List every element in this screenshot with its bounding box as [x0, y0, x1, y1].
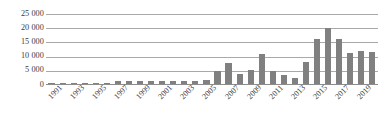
x-tick-cell: 1997: [112, 87, 123, 135]
bar-cell: [79, 14, 90, 84]
x-tick-cell: 2011: [267, 87, 278, 135]
bar-cell: [223, 14, 234, 84]
bar: [336, 39, 342, 84]
y-axis-tick-labels: 05 00010 00015 00020 00025 000: [0, 0, 44, 95]
bar: [71, 83, 77, 84]
x-tick-cell: 2007: [223, 87, 234, 135]
y-axis-tick-label: 5 000: [0, 66, 44, 74]
bar-cell: [212, 14, 223, 84]
x-tick-cell: [57, 87, 68, 135]
bar: [60, 83, 66, 84]
bar-cell: [356, 14, 367, 84]
x-tick-cell: 2019: [356, 87, 367, 135]
bar: [126, 81, 132, 84]
bar-cell: [68, 14, 79, 84]
bar: [248, 70, 254, 84]
bar-cell: [345, 14, 356, 84]
bar: [358, 51, 364, 84]
bar-cell: [278, 14, 289, 84]
bar-cell: [157, 14, 168, 84]
bar-cell: [234, 14, 245, 84]
x-tick-cell: [101, 87, 112, 135]
bar: [93, 83, 99, 84]
bar: [48, 83, 54, 84]
bar-cell: [146, 14, 157, 84]
x-tick-cell: 1999: [135, 87, 146, 135]
x-tick-cell: 2017: [334, 87, 345, 135]
bar-cell: [267, 14, 278, 84]
x-tick-cell: [256, 87, 267, 135]
bar-cell: [101, 14, 112, 84]
bar-cell: [312, 14, 323, 84]
x-tick-cell: [367, 87, 378, 135]
bar-cell: [323, 14, 334, 84]
bar-cell: [367, 14, 378, 84]
bar-cell: [112, 14, 123, 84]
bar-cell: [57, 14, 68, 84]
x-tick-cell: [212, 87, 223, 135]
bar: [369, 52, 375, 84]
x-tick-cell: [79, 87, 90, 135]
bar-cell: [300, 14, 311, 84]
bar-cell: [256, 14, 267, 84]
bar-cell: [179, 14, 190, 84]
bar: [159, 81, 165, 84]
y-axis-tick-label: 15 000: [0, 38, 44, 46]
bar: [292, 78, 298, 84]
x-tick-cell: 2009: [245, 87, 256, 135]
bar: [225, 63, 231, 84]
y-axis-tick-label: 20 000: [0, 24, 44, 32]
bar: [259, 54, 265, 84]
bar-cell: [46, 14, 57, 84]
bar: [203, 80, 209, 84]
bar-chart: 05 00010 00015 00020 00025 000 199119931…: [0, 0, 382, 135]
y-axis-tick-label: 10 000: [0, 52, 44, 60]
bar-cell: [289, 14, 300, 84]
bar-cell: [201, 14, 212, 84]
x-tick-cell: [234, 87, 245, 135]
bar: [148, 81, 154, 84]
x-tick-cell: 1991: [46, 87, 57, 135]
x-tick-cell: 2013: [289, 87, 300, 135]
bar: [237, 74, 243, 84]
bar-cell: [90, 14, 101, 84]
bar-cell: [135, 14, 146, 84]
x-tick-cell: 2003: [179, 87, 190, 135]
bar: [347, 53, 353, 84]
bar: [314, 39, 320, 84]
bar: [214, 71, 220, 84]
bar-cell: [168, 14, 179, 84]
y-axis-tick-label: 25 000: [0, 10, 44, 18]
x-tick-cell: 2015: [312, 87, 323, 135]
x-tick-cell: 2005: [201, 87, 212, 135]
bar: [281, 75, 287, 84]
plot-area: [46, 14, 378, 85]
x-tick-cell: [278, 87, 289, 135]
bar: [82, 83, 88, 84]
bar-series: [46, 14, 378, 84]
bar: [181, 81, 187, 84]
bar-cell: [245, 14, 256, 84]
bar: [192, 81, 198, 84]
bar-cell: [190, 14, 201, 84]
bar: [270, 71, 276, 84]
bar: [137, 81, 143, 84]
x-tick-cell: 1993: [68, 87, 79, 135]
bar: [104, 83, 110, 84]
x-tick-cell: 1995: [90, 87, 101, 135]
bar: [115, 81, 121, 84]
bar-cell: [123, 14, 134, 84]
x-axis-tick-labels: 1991199319951997199920012003200520072009…: [46, 87, 378, 135]
x-tick-cell: 2001: [157, 87, 168, 135]
bar: [303, 62, 309, 84]
y-axis-tick-label: 0: [0, 81, 44, 89]
bar: [325, 28, 331, 84]
bar: [170, 81, 176, 84]
bar-cell: [334, 14, 345, 84]
